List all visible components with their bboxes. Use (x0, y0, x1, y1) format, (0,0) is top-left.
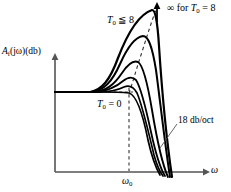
infinity-rest: = 8 (200, 2, 216, 13)
t0-zero-annotation: T0 = 0 (97, 99, 122, 110)
y-axis-label: Af(jω)(db) (2, 47, 41, 57)
omega0-label: ω0 (122, 176, 132, 187)
x-axis-arrow (203, 169, 210, 176)
bode-magnitude-figure: Af(jω)(db) ω ω0 T0 ≦ 8 T0 = 0 ∞ for T0 =… (0, 0, 231, 192)
t0-max-rest: ≦ 8 (116, 14, 134, 25)
t0-max-annotation: T0 ≦ 8 (107, 15, 134, 26)
y-axis-label-rest: (jω)(db) (10, 46, 41, 56)
plot-canvas (0, 0, 231, 192)
rolloff-annotation: 18 db/oct (178, 116, 214, 126)
infinity-arrow-head (154, 2, 161, 9)
infinity-annotation: ∞ for T0 = 8 (167, 3, 215, 14)
response-curve-t0-8 (55, 10, 172, 177)
x-axis-label: ω (211, 165, 218, 175)
y-axis-arrow (52, 53, 59, 60)
infinity-prefix: ∞ for (167, 2, 191, 13)
omega0-label-var: ω (122, 175, 129, 186)
omega0-label-sub: 0 (129, 180, 132, 187)
t0-zero-rest: = 0 (106, 98, 122, 109)
